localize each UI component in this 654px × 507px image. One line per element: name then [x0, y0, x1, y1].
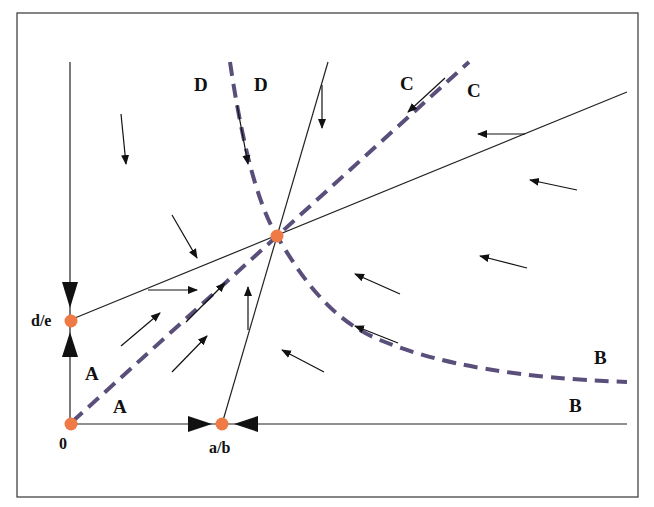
nullcline-de: [70, 92, 627, 320]
region-label-c2: C: [467, 81, 481, 100]
arrow-icon: [186, 283, 225, 322]
region-label-a2: A: [113, 397, 127, 416]
separatrix-db: [230, 62, 627, 382]
arrow-icon: [172, 215, 197, 258]
region-label-d1: D: [194, 75, 208, 94]
phase-diagram: [0, 0, 654, 507]
region-label-b1: B: [594, 348, 607, 367]
arrow-icon: [480, 256, 527, 268]
arrow-icon: [188, 416, 212, 432]
equilibrium-de: [65, 315, 78, 328]
label-origin: 0: [59, 436, 67, 452]
arrow-icon: [62, 332, 78, 357]
arrow-icon: [172, 336, 207, 372]
arrow-icon: [62, 282, 78, 308]
arrow-icon: [282, 350, 324, 372]
arrow-icon: [121, 313, 160, 346]
arrow-icon: [530, 180, 577, 190]
region-label-c1: C: [400, 74, 414, 93]
separatrix-ac: [72, 62, 469, 422]
arrow-icon: [355, 326, 398, 343]
arrow-icon: [237, 105, 248, 164]
arrow-icon: [121, 114, 126, 164]
equilibrium-interior: [271, 230, 284, 243]
equilibrium-origin: [65, 418, 78, 431]
arrow-icon: [234, 416, 258, 432]
region-label-d2: D: [254, 75, 268, 94]
region-label-b2: B: [569, 396, 582, 415]
label-a-over-b: a/b: [209, 440, 230, 456]
region-label-a1: A: [85, 364, 99, 383]
equilibrium-ab: [216, 418, 229, 431]
label-d-over-e: d/e: [31, 313, 51, 329]
arrow-icon: [355, 274, 400, 294]
